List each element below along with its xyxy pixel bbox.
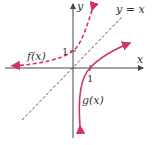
identity-line-label: y = x xyxy=(115,3,145,16)
y-tick-label: 1 xyxy=(62,46,68,57)
x-tick-label: 1 xyxy=(87,73,93,84)
x-axis-label: x xyxy=(137,53,144,66)
f-curve xyxy=(12,10,92,66)
g-label: g(x) xyxy=(82,94,104,107)
f-label: f(x) xyxy=(26,50,46,63)
inverse-function-diagram: y x y = x f(x) g(x) 1 1 xyxy=(0,0,152,145)
y-axis-label: y xyxy=(76,0,84,13)
g-curve xyxy=(79,43,130,126)
